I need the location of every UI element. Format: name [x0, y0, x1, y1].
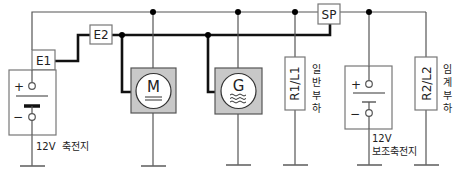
negative-terminal-icon	[29, 114, 36, 121]
aux-battery: + −	[345, 66, 392, 129]
junction-dot	[205, 32, 211, 38]
motor: M	[131, 68, 176, 113]
vehicle-power-circuit-diagram: E1 E2 SP + − 12V 축전지 M G	[0, 0, 458, 176]
load1-code: R1/L1	[288, 66, 302, 100]
load2-char-3: 부	[443, 90, 452, 101]
main-battery-plus: +	[14, 80, 24, 94]
positive-terminal-icon	[29, 83, 36, 90]
generator: G	[215, 68, 262, 114]
main-battery: + −	[9, 70, 56, 135]
junction-dot	[292, 9, 298, 15]
load1-char-1: 일	[312, 64, 321, 75]
junction-dot	[235, 9, 241, 15]
general-load-r1-l1: R1/L1 일 반 부 하	[285, 57, 321, 114]
connector-sp: SP	[318, 4, 340, 24]
generator-thick-wire	[208, 35, 215, 92]
generator-symbol: G	[233, 77, 245, 95]
connector-e2-label: E2	[93, 28, 108, 42]
junction-dot	[150, 9, 156, 15]
aux-battery-label-voltage: 12V	[372, 133, 392, 144]
load1-char-2: 반	[312, 77, 321, 88]
main-battery-label: 12V 축전지	[36, 141, 89, 152]
connector-e2: E2	[90, 25, 112, 44]
motor-symbol: M	[147, 78, 160, 96]
junction-dot	[119, 32, 125, 38]
aux-battery-minus: −	[350, 107, 360, 121]
positive-terminal-icon	[366, 81, 373, 88]
load2-char-4: 하	[443, 102, 452, 114]
top-bus-wire	[32, 12, 318, 50]
connector-e1: E1	[32, 50, 55, 70]
junction-dot	[366, 9, 372, 15]
load2-code: R2/L2	[420, 66, 434, 100]
critical-load-r2-l2: R2/L2 임 계 부 하	[415, 57, 452, 114]
negative-terminal-icon	[366, 110, 373, 117]
aux-battery-label-name: 보조축전지	[372, 146, 417, 157]
main-battery-minus: −	[13, 110, 23, 124]
load1-char-3: 부	[312, 90, 321, 101]
load2-char-1: 임	[443, 63, 452, 75]
load1-char-4: 하	[312, 102, 321, 114]
aux-battery-plus: +	[351, 78, 361, 92]
e1-e2-wire	[55, 35, 90, 61]
load2-char-2: 계	[443, 77, 452, 88]
main-thick-bus	[112, 24, 330, 35]
motor-thick-wire	[122, 35, 131, 92]
connector-e1-label: E1	[36, 54, 51, 68]
connector-sp-label: SP	[322, 8, 337, 22]
